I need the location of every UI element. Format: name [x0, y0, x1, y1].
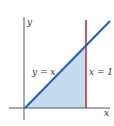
label-y-equals-x: y = x [31, 67, 55, 77]
x-axis-label: x [104, 108, 109, 118]
diagram: y x y = x x = 1 [0, 0, 114, 126]
y-axis-label: y [26, 17, 33, 27]
label-x-equals-1: x = 1 [89, 67, 113, 77]
